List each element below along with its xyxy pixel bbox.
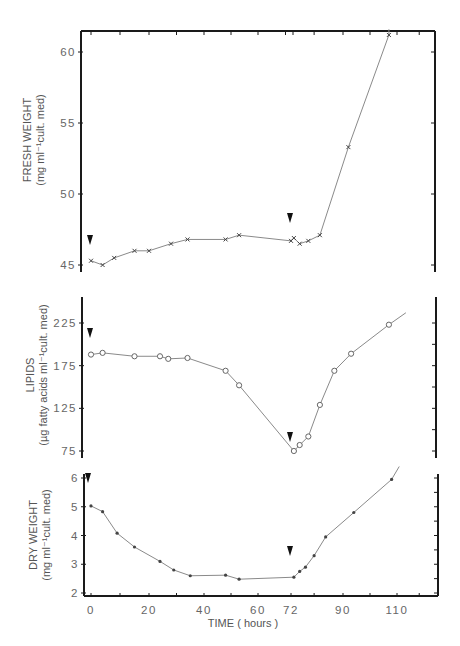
lipids-panel: 75125175225LIPIDS(µg fatty acids ml⁻¹cul… bbox=[24, 297, 436, 458]
y-axis-title: FRESH WEIGHT bbox=[21, 98, 33, 183]
dot-marker bbox=[89, 504, 92, 507]
arrowhead-icon bbox=[87, 235, 93, 245]
circle-marker bbox=[185, 355, 190, 360]
dot-marker bbox=[313, 554, 316, 557]
arrowhead-icon bbox=[287, 432, 293, 442]
y-tick-label: 6 bbox=[71, 472, 79, 484]
dot-marker bbox=[101, 510, 104, 513]
data-line bbox=[91, 467, 399, 580]
dot-marker bbox=[133, 545, 136, 548]
fresh-weight-panel: 45505560FRESH WEIGHT(mg ml⁻¹cult. med) bbox=[21, 29, 435, 272]
dot-marker bbox=[390, 478, 393, 481]
y-tick-label: 45 bbox=[60, 259, 76, 271]
circle-marker bbox=[317, 402, 322, 407]
dot-marker bbox=[189, 574, 192, 577]
y-tick-label: 75 bbox=[61, 445, 77, 457]
circle-marker bbox=[237, 383, 242, 388]
x-tick-label: 0 bbox=[87, 604, 95, 616]
dot-marker bbox=[304, 566, 307, 569]
y-tick-label: 60 bbox=[60, 46, 76, 58]
arrowhead-icon bbox=[287, 546, 293, 556]
time-x-axis: 02040607290110TIME ( hours ) bbox=[87, 604, 408, 629]
arrowhead-icon bbox=[287, 213, 293, 223]
y-axis-units: (µg fatty acids ml⁻¹cult. med) bbox=[37, 304, 49, 445]
y-tick-label: 5 bbox=[71, 501, 79, 513]
y-axis-title: LIPIDS bbox=[24, 358, 36, 393]
dot-marker bbox=[172, 568, 175, 571]
circle-marker bbox=[223, 368, 228, 373]
circle-marker bbox=[349, 351, 354, 356]
circle-marker bbox=[306, 434, 311, 439]
dot-marker bbox=[158, 560, 161, 563]
circle-marker bbox=[386, 322, 391, 327]
chart-canvas: 45505560FRESH WEIGHT(mg ml⁻¹cult. med) 7… bbox=[0, 0, 460, 646]
x-axis-title: TIME ( hours ) bbox=[208, 617, 278, 629]
dot-marker bbox=[352, 511, 355, 514]
circle-marker bbox=[132, 354, 137, 359]
y-tick-label: 55 bbox=[60, 117, 76, 129]
circle-marker bbox=[88, 352, 93, 357]
data-line bbox=[91, 313, 406, 451]
circle-marker bbox=[291, 448, 296, 453]
dry-weight-panel: 23456DRY WEIGHT(mg ml⁻¹cult. med) bbox=[27, 467, 438, 600]
x-tick-label: 110 bbox=[386, 604, 409, 616]
dot-marker bbox=[298, 570, 301, 573]
y-tick-label: 2 bbox=[71, 587, 79, 599]
figure: 45505560FRESH WEIGHT(mg ml⁻¹cult. med) 7… bbox=[0, 0, 460, 646]
x-tick-label: 90 bbox=[335, 604, 351, 616]
circle-marker bbox=[157, 354, 162, 359]
dot-marker bbox=[324, 535, 327, 538]
y-tick-label: 3 bbox=[71, 558, 79, 570]
arrowhead-icon bbox=[87, 328, 93, 338]
dot-marker bbox=[116, 532, 119, 535]
y-tick-label: 225 bbox=[53, 317, 77, 329]
data-line bbox=[91, 29, 389, 265]
circle-marker bbox=[100, 350, 105, 355]
y-tick-label: 175 bbox=[53, 360, 77, 372]
x-tick-label: 40 bbox=[196, 604, 212, 616]
circle-marker bbox=[166, 356, 171, 361]
y-axis-units: (mg ml⁻¹cult. med) bbox=[40, 489, 52, 581]
x-tick-label: 60 bbox=[250, 604, 266, 616]
circle-marker bbox=[297, 442, 302, 447]
circle-marker bbox=[332, 368, 337, 373]
y-tick-label: 4 bbox=[71, 530, 79, 542]
y-axis-title: DRY WEIGHT bbox=[27, 500, 39, 570]
y-tick-label: 50 bbox=[60, 188, 76, 200]
y-axis-units: (mg ml⁻¹cult. med) bbox=[34, 94, 46, 186]
x-marker bbox=[292, 236, 296, 240]
y-tick-label: 125 bbox=[53, 402, 77, 414]
dot-marker bbox=[224, 574, 227, 577]
x-tick-label: 72 bbox=[283, 604, 299, 616]
dot-marker bbox=[238, 578, 241, 581]
x-tick-label: 20 bbox=[141, 604, 157, 616]
dot-marker bbox=[292, 576, 295, 579]
